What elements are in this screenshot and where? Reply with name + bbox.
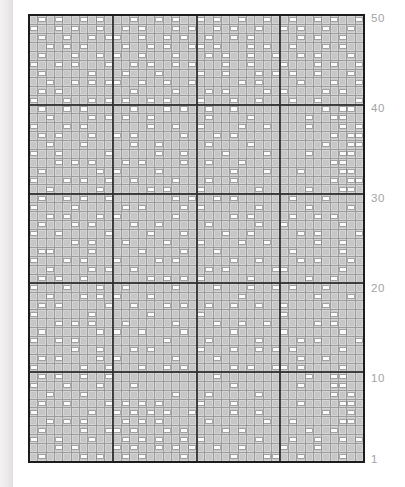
knit-cell — [147, 25, 154, 33]
purl-dash-cell — [55, 132, 62, 140]
purl-dash-cell — [97, 355, 104, 363]
knit-cell — [47, 382, 54, 390]
knit-cell — [122, 212, 129, 220]
knit-cell — [88, 212, 95, 220]
purl-dash-cell — [55, 61, 62, 69]
knit-cell — [147, 391, 154, 399]
knit-cell — [47, 408, 54, 416]
knit-cell — [230, 426, 237, 434]
purl-dash-cell — [80, 194, 87, 202]
knit-cell — [205, 43, 212, 51]
knit-cell — [239, 284, 246, 292]
knit-cell — [80, 78, 87, 86]
knit-cell — [247, 400, 254, 408]
knit-cell — [122, 34, 129, 42]
knit-cell — [155, 114, 162, 122]
knit-cell — [63, 70, 70, 78]
purl-dash-cell — [255, 25, 262, 33]
knit-cell — [222, 391, 229, 399]
purl-dash-cell — [339, 266, 346, 274]
knit-cell — [155, 203, 162, 211]
knit-cell — [113, 275, 120, 283]
knit-cell — [105, 435, 112, 443]
purl-dash-cell — [47, 248, 54, 256]
knit-cell — [239, 417, 246, 425]
purl-dash-cell — [306, 275, 313, 283]
knit-cell — [197, 221, 204, 229]
knit-cell — [297, 43, 304, 51]
knit-cell — [347, 78, 354, 86]
knit-cell — [347, 239, 354, 247]
knit-cell — [97, 194, 104, 202]
knit-cell — [130, 230, 137, 238]
knit-cell — [306, 194, 313, 202]
knit-cell — [63, 266, 70, 274]
knit-cell — [122, 168, 129, 176]
purl-dash-cell — [356, 61, 363, 69]
knit-cell — [172, 168, 179, 176]
knit-cell — [339, 132, 346, 140]
knit-cell — [88, 168, 95, 176]
knit-cell — [30, 212, 37, 220]
purl-dash-cell — [105, 177, 112, 185]
knit-cell — [306, 96, 313, 104]
purl-dash-cell — [164, 239, 171, 247]
knit-cell — [172, 141, 179, 149]
knit-cell — [289, 257, 296, 265]
knit-cell — [139, 87, 146, 95]
knit-cell — [331, 364, 338, 372]
purl-dash-cell — [297, 400, 304, 408]
purl-dash-cell — [122, 43, 129, 51]
purl-dash-cell — [63, 43, 70, 51]
knit-cell — [306, 132, 313, 140]
knit-cell — [122, 194, 129, 202]
knit-cell — [63, 328, 70, 336]
knit-cell — [272, 373, 279, 381]
knit-cell — [272, 417, 279, 425]
purl-dash-cell — [30, 337, 37, 345]
stitch-chart-frame — [28, 14, 365, 463]
knit-cell — [314, 203, 321, 211]
knit-cell — [172, 408, 179, 416]
purl-dash-cell — [356, 96, 363, 104]
purl-dash-cell — [255, 346, 262, 354]
knit-cell — [230, 310, 237, 318]
knit-cell — [239, 453, 246, 461]
knit-cell — [172, 239, 179, 247]
knit-cell — [306, 364, 313, 372]
knit-cell — [189, 239, 196, 247]
knit-cell — [139, 337, 146, 345]
knit-cell — [322, 230, 329, 238]
purl-dash-cell — [72, 444, 79, 452]
purl-dash-cell — [80, 141, 87, 149]
knit-cell — [189, 373, 196, 381]
knit-cell — [314, 355, 321, 363]
knit-cell — [38, 96, 45, 104]
knit-cell — [88, 203, 95, 211]
knit-cell — [272, 230, 279, 238]
knit-cell — [205, 319, 212, 327]
knit-cell — [339, 293, 346, 301]
knit-cell — [322, 382, 329, 390]
knit-cell — [105, 444, 112, 452]
knit-cell — [30, 266, 37, 274]
knit-cell — [222, 248, 229, 256]
purl-dash-cell — [30, 364, 37, 372]
knit-cell — [30, 52, 37, 60]
knit-cell — [306, 221, 313, 229]
purl-dash-cell — [164, 105, 171, 113]
knit-cell — [264, 96, 271, 104]
knit-cell — [155, 212, 162, 220]
knit-cell — [80, 239, 87, 247]
knit-cell — [88, 328, 95, 336]
knit-cell — [239, 185, 246, 193]
knit-cell — [322, 248, 329, 256]
knit-cell — [80, 203, 87, 211]
purl-dash-cell — [139, 25, 146, 33]
knit-cell — [239, 275, 246, 283]
knit-cell — [264, 364, 271, 372]
knit-cell — [356, 391, 363, 399]
knit-cell — [55, 453, 62, 461]
knit-cell — [88, 444, 95, 452]
knit-cell — [105, 346, 112, 354]
